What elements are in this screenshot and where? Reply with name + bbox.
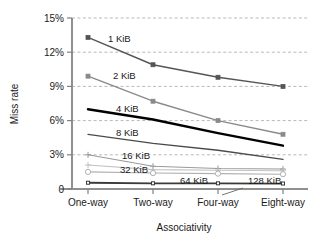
series-line-64-kib [88,172,283,174]
data-point-64-kib-1 [150,170,155,175]
data-point-1-kib-0 [86,35,90,39]
category-label-one-way: One-way [68,197,108,208]
series-label-32-kib: 32 KiB [120,164,148,175]
x-axis-title: Associativity [156,222,211,233]
series-label-16-kib: 16 KiB [122,150,150,161]
data-point-2-kib-3 [281,132,285,136]
series-label-8-kib: 8 KiB [116,127,139,138]
chart-canvas: 03%6%9%12%15% 1 KiB2 KiB4 KiB8 KiB16 KiB… [0,0,316,239]
y-tick-label: 0 [58,184,64,195]
series-line-32-kib [88,165,283,171]
data-point-128-kib-1 [152,182,155,185]
y-tick-label: 9% [50,81,65,92]
y-tick-labels: 03%6%9%12%15% [44,13,72,195]
category-label-eight-way: Eight-way [261,197,305,208]
series-label-128-kib: 128 KiB [248,175,281,186]
category-labels: One-wayTwo-wayFour-wayEight-way [68,197,305,208]
series-label-1-kib: 1 KiB [108,33,131,44]
series-line-8-kib [88,134,283,159]
series-label-4-kib: 4 KiB [116,103,139,114]
data-point-1-kib-1 [151,63,155,67]
data-point-1-kib-2 [216,75,220,79]
y-tick-label: 15% [44,13,64,24]
series-label-2-kib: 2 KiB [113,70,136,81]
category-label-four-way: Four-way [197,197,239,208]
series-labels: 1 KiB2 KiB4 KiB8 KiB16 KiB32 KiB64 KiB12… [108,33,281,186]
data-point-128-kib-2 [217,182,220,185]
data-point-64-kib-2 [215,171,220,176]
data-point-64-kib-0 [85,169,90,174]
series-label-64-kib: 64 KiB [180,175,208,186]
data-point-2-kib-0 [86,74,90,78]
y-tick-label: 12% [44,47,64,58]
y-axis-title: Miss rate [9,83,20,124]
x-axis [60,189,308,194]
data-point-128-kib-3 [282,182,285,185]
y-tick-label: 3% [50,149,65,160]
category-label-two-way: Two-way [133,197,172,208]
y-tick-label: 6% [50,115,65,126]
data-point-2-kib-1 [151,99,155,103]
miss-rate-chart: 03%6%9%12%15% 1 KiB2 KiB4 KiB8 KiB16 KiB… [0,0,316,239]
data-point-128-kib-0 [87,181,90,184]
data-point-2-kib-2 [216,119,220,123]
data-point-1-kib-3 [281,84,285,88]
